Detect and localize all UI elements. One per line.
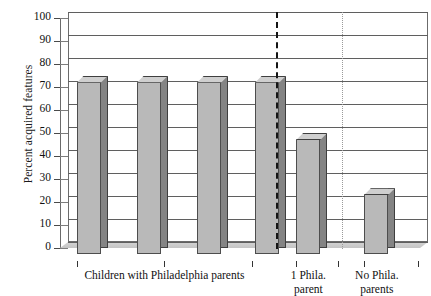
x-tick-3 [296,261,297,267]
y-tick-label-100: 100 [34,10,51,22]
bar-3-front-face [197,82,221,255]
y-tick-label-90: 90 [40,33,52,45]
x-axis-group-label-1-line-0: 1 Phila. [291,268,326,282]
x-tick-0 [77,261,78,267]
y-tick-label-40: 40 [40,148,52,160]
bar-3-side-face [221,76,228,249]
y-tick-label-50: 50 [40,125,52,137]
y-tick-label-20: 20 [40,194,52,206]
gridline-80 [68,58,428,59]
x-axis-group-label-0-line-0: Children with Philadelphia parents [84,268,244,282]
gridline-100 [68,12,428,13]
bar-2-side-face [161,76,168,249]
gridline-50 [68,127,428,128]
y-tick-inner-10 [60,225,68,226]
bar-1-side-face [101,76,108,249]
bar-1-front-face [77,82,101,255]
y-tick-inner-30 [60,179,68,180]
x-tick-6 [418,261,419,267]
y-tick-inner-50 [60,133,68,134]
y-tick-inner-20 [60,202,68,203]
group-divider-thick [276,12,278,249]
y-tick-inner-40 [60,156,68,157]
y-tick-label-80: 80 [40,56,52,68]
bar-5-front-face [296,139,320,254]
gridline-40 [68,150,428,151]
y-tick-inner-90 [60,41,68,42]
y-tick-inner-80 [60,64,68,65]
bar-6-side-face [388,188,395,248]
x-axis-group-label-2-line-0: No Phila. [355,268,398,282]
y-tick-inner-60 [60,110,68,111]
x-tick-2 [252,261,253,267]
y-tick-label-60: 60 [40,102,52,114]
y-tick-label-30: 30 [40,171,52,183]
x-axis-group-label-2-line-1: parents [355,282,398,296]
y-tick-label-0: 0 [45,240,51,252]
y-tick-inner-0 [60,248,68,249]
bar-6-front-face [364,194,388,254]
bar-2 [137,76,161,255]
bar-6 [364,188,388,254]
x-axis-group-label-1-line-1: parent [291,282,326,296]
bar-3 [197,76,221,255]
y-tick-inner-70 [60,87,68,88]
x-tick-5 [364,261,365,267]
bar-5 [296,133,320,254]
bar-2-front-face [137,82,161,255]
y-tick-inner-100 [60,18,68,19]
y-tick-label-10: 10 [40,217,52,229]
bar-4-side-face [279,76,286,249]
plot-area: 1009080706050403020100 Children with Phi… [60,12,420,248]
x-axis-group-label-0: Children with Philadelphia parents [84,268,244,282]
bar-1 [77,76,101,255]
x-axis-group-label-2: No Phila.parents [355,268,398,296]
y-axis-title: Percent acquired features [22,34,34,214]
y-tick-label-70: 70 [40,79,52,91]
group-divider-thin [342,12,343,249]
gridline-90 [68,35,428,36]
bar-5-side-face [320,133,327,248]
gridline-30 [68,173,428,174]
gridline-70 [68,81,428,82]
x-tick-4 [338,261,339,267]
x-axis-group-label-1: 1 Phila.parent [291,268,326,296]
gridline-60 [68,104,428,105]
x-tick-1 [164,261,165,267]
